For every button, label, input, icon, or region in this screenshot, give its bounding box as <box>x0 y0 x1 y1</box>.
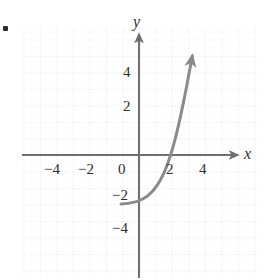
y-tick-label--2: −2 <box>112 188 128 203</box>
x-tick-label--4: −4 <box>44 162 60 177</box>
x-tick-label-2: 2 <box>166 162 174 177</box>
x-tick-label-4: 4 <box>199 162 207 177</box>
bullet-marker-icon <box>3 26 8 31</box>
grid-layer <box>23 27 258 276</box>
y-tick-label-4: 4 <box>123 65 131 80</box>
x-axis-label: x <box>244 146 251 162</box>
x-tick-label--2: −2 <box>78 162 94 177</box>
y-axis-label: y <box>133 14 140 30</box>
coordinate-plane-svg <box>0 0 277 280</box>
y-tick-label--4: −4 <box>112 221 128 236</box>
x-tick-label-0: 0 <box>118 162 126 177</box>
graph-figure: −4 −2 0 2 4 4 2 −2 −4 x y <box>0 0 277 280</box>
y-tick-label-2: 2 <box>123 99 131 114</box>
